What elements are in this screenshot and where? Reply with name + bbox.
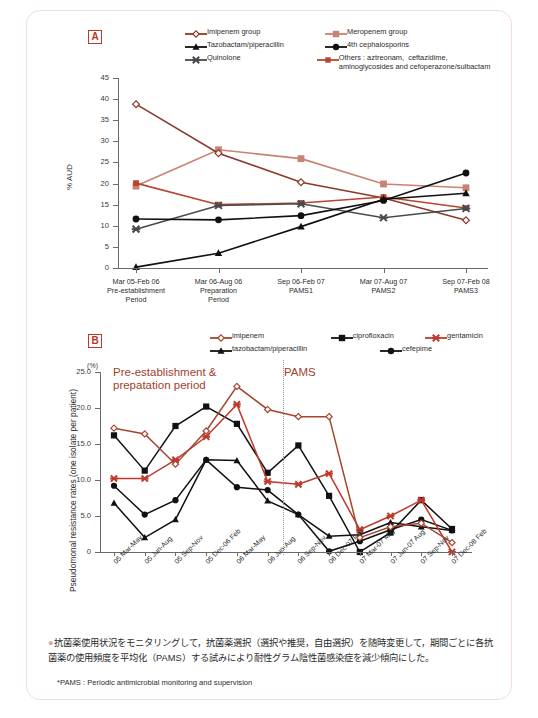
x-tick bbox=[219, 268, 220, 273]
footnote-bullet-text: 抗菌薬使用状況をモニタリングして，抗菌薬選択（選択や推奨，自由選択）を随時変更し… bbox=[48, 638, 493, 663]
legend-marker-icon bbox=[331, 333, 353, 342]
legend-marker-icon bbox=[425, 333, 447, 342]
x-tick bbox=[268, 552, 269, 556]
x-tick bbox=[301, 268, 302, 273]
legend-marker-icon bbox=[185, 55, 207, 64]
panel-a-y-axis-line bbox=[118, 78, 119, 268]
footnote-pams: *PAMS : Periodic antimicrobial monitorin… bbox=[57, 678, 487, 687]
panel-a: A Imipenem groupMeropenem groupTazobacta… bbox=[0, 0, 538, 310]
panel-b-ylabel: Pseudomonal resistance rates (one isolat… bbox=[68, 389, 78, 592]
y-tick bbox=[95, 516, 100, 517]
legend-item: Meropenem group bbox=[325, 28, 505, 38]
x-tick bbox=[391, 552, 392, 556]
y-tick bbox=[95, 480, 100, 481]
legend-item: Others : aztreonam, ceftazidime, aminogl… bbox=[317, 54, 505, 71]
panel-b-plot bbox=[100, 372, 472, 552]
legend-label: Meropenem group bbox=[347, 28, 407, 37]
x-tick-label: Sep 07-Feb 08 PAMS3 bbox=[418, 277, 514, 295]
panel-a-x-axis-line bbox=[118, 268, 488, 269]
legend-item: Quinolone bbox=[185, 54, 317, 64]
y-tick-label: 35 bbox=[83, 115, 109, 124]
y-tick bbox=[95, 444, 100, 445]
panel-b: B imipenemciprofloxacingentamicintazobac… bbox=[0, 330, 538, 630]
legend-marker-icon bbox=[317, 55, 339, 64]
legend-label: Others : aztreonam, ceftazidime, aminogl… bbox=[339, 54, 491, 71]
legend-label: tazobactam/piperacillin bbox=[232, 345, 307, 354]
legend-label: Imipenem group bbox=[207, 28, 260, 37]
y-tick bbox=[113, 184, 118, 185]
legend-marker-icon bbox=[210, 346, 232, 355]
legend-label: ciprofloxacin bbox=[353, 332, 394, 341]
y-tick-label: 30 bbox=[83, 136, 109, 145]
panel-b-y-axis-line bbox=[100, 372, 101, 552]
footnote-bullet: ●抗菌薬使用状況をモニタリングして，抗菌薬選択（選択や推奨，自由選択）を随時変更… bbox=[48, 636, 494, 666]
legend-marker-icon bbox=[325, 29, 347, 38]
legend-item: Imipenem group bbox=[185, 28, 325, 38]
y-tick bbox=[113, 78, 118, 79]
y-tick bbox=[113, 120, 118, 121]
y-tick bbox=[95, 552, 100, 553]
legend-label: Quinolone bbox=[207, 54, 241, 63]
panel-a-plot bbox=[118, 78, 488, 268]
legend-item: tazobactam/piperacillin bbox=[210, 345, 380, 355]
x-tick bbox=[136, 268, 137, 273]
y-tick-label: 45 bbox=[83, 73, 109, 82]
y-tick-label: 15 bbox=[83, 200, 109, 209]
y-tick-label: 20.0 bbox=[63, 403, 91, 412]
x-tick bbox=[466, 268, 467, 273]
legend-item: gentamicin bbox=[425, 332, 510, 342]
legend-item: 4th cephalosporins bbox=[325, 41, 505, 51]
panel-a-ylabel: % AUD bbox=[65, 164, 74, 190]
y-tick bbox=[113, 162, 118, 163]
legend-marker-icon bbox=[185, 29, 207, 38]
legend-label: gentamicin bbox=[447, 332, 483, 341]
x-tick bbox=[384, 268, 385, 273]
legend-item: ciprofloxacin bbox=[331, 332, 425, 342]
panel-b-badge: B bbox=[88, 334, 102, 348]
y-tick bbox=[113, 141, 118, 142]
y-tick-label: 10 bbox=[83, 221, 109, 230]
y-tick-label: 0 bbox=[63, 547, 91, 556]
y-tick bbox=[113, 268, 118, 269]
y-tick-label: 5.0 bbox=[63, 511, 91, 520]
panel-a-badge: A bbox=[88, 30, 102, 44]
legend-label: 4th cephalosporins bbox=[347, 41, 409, 50]
legend-label: Tazobactam/piperacillin bbox=[207, 41, 284, 50]
y-tick-label: 40 bbox=[83, 94, 109, 103]
x-tick bbox=[145, 552, 146, 556]
panel-b-legend: imipenemciprofloxacingentamicintazobacta… bbox=[210, 332, 510, 358]
y-tick bbox=[113, 99, 118, 100]
y-tick-label: 0 bbox=[83, 263, 109, 272]
legend-marker-icon bbox=[380, 346, 402, 355]
y-tick-label: 25 bbox=[83, 157, 109, 166]
legend-marker-icon bbox=[185, 42, 207, 51]
legend-marker-icon bbox=[210, 333, 232, 342]
legend-item: cefepime bbox=[380, 345, 480, 355]
y-tick-label: 15.0 bbox=[63, 439, 91, 448]
legend-label: cefepime bbox=[402, 345, 432, 354]
y-tick bbox=[113, 226, 118, 227]
y-tick bbox=[95, 408, 100, 409]
panel-a-legend: Imipenem groupMeropenem groupTazobactam/… bbox=[185, 28, 505, 74]
y-tick-label: 20 bbox=[83, 179, 109, 188]
y-tick-label: 25.0 bbox=[63, 367, 91, 376]
y-tick-label: 10.0 bbox=[63, 475, 91, 484]
y-tick-label: 5 bbox=[83, 242, 109, 251]
y-tick bbox=[113, 205, 118, 206]
y-tick bbox=[113, 247, 118, 248]
legend-item: Tazobactam/piperacillin bbox=[185, 41, 325, 51]
y-tick bbox=[95, 372, 100, 373]
legend-label: imipenem bbox=[232, 332, 264, 341]
legend-marker-icon bbox=[325, 42, 347, 51]
pams-divider bbox=[283, 360, 284, 555]
legend-item: imipenem bbox=[210, 332, 331, 342]
